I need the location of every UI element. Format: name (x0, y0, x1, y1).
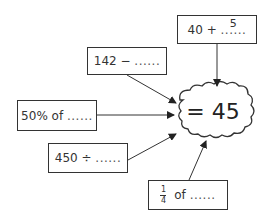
box-subtract-prefix: 142 − (94, 54, 135, 68)
arrow-subtract (127, 75, 176, 103)
fraction-numerator: 1 (161, 186, 166, 194)
box-subtract: 142 − ...... (87, 47, 167, 75)
fraction-denominator: 4 (161, 197, 166, 205)
box-add-blank[interactable]: ...... 5 (221, 23, 247, 37)
box-fraction-suffix: of (170, 188, 189, 202)
box-add: 40 + ...... 5 (177, 15, 257, 44)
box-divide: 450 ÷ ...... (48, 143, 128, 173)
box-percent-blank[interactable]: ...... (67, 109, 93, 123)
diagram: = 45 40 + ...... 5 142 − ...... 50% of .… (0, 0, 271, 223)
arrow-divide (128, 134, 176, 160)
box-add-answer: 5 (230, 17, 238, 30)
box-subtract-blank[interactable]: ...... (134, 54, 160, 68)
fraction-one-quarter: 1 4 (160, 186, 166, 205)
box-percent: 50% of ...... (17, 100, 97, 131)
box-fraction: 1 4 of ...... (148, 180, 228, 210)
box-fraction-blank[interactable]: ...... (190, 188, 216, 202)
box-percent-prefix: 50% of (21, 109, 67, 123)
arrow-fraction (189, 141, 206, 180)
box-add-prefix: 40 + (188, 23, 221, 37)
box-divide-prefix: 450 ÷ (55, 151, 96, 165)
center-result: = 45 (172, 85, 254, 137)
box-divide-blank[interactable]: ...... (95, 151, 121, 165)
